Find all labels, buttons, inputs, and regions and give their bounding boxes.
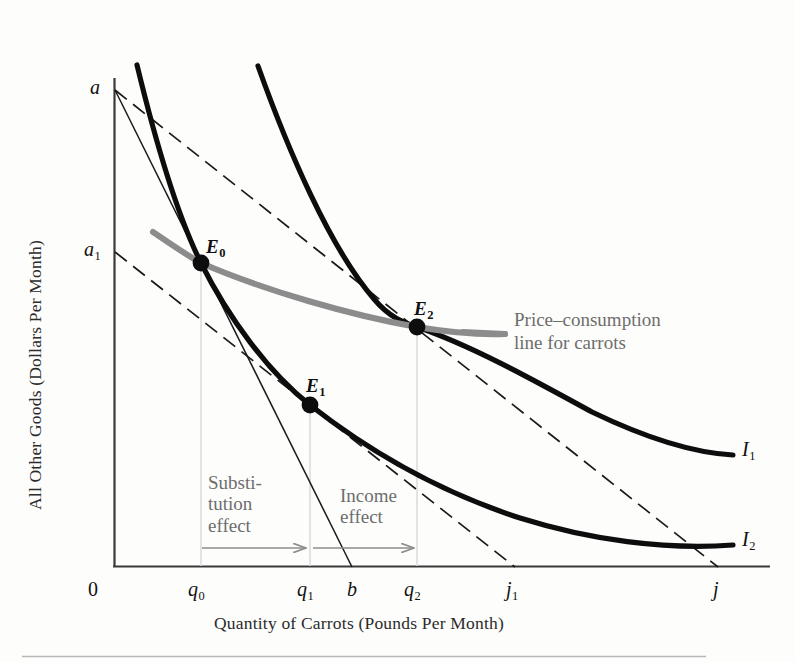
x-mark-j1-text: j bbox=[506, 578, 512, 600]
curve-label-I1-sub: 1 bbox=[749, 449, 756, 463]
equilibrium-label-E2-text: E bbox=[414, 298, 427, 319]
equilibrium-label-E1-sub: 1 bbox=[319, 385, 326, 399]
substitution-effect-line-2: tution bbox=[208, 493, 262, 514]
pcl-label-leader bbox=[463, 332, 505, 334]
x-mark-q2-sub: 2 bbox=[414, 589, 421, 603]
equilibrium-label-E0-text: E bbox=[206, 236, 219, 257]
indifference-curve-figure: All Other Goods (Dollars Per Month) Quan… bbox=[0, 0, 795, 662]
plot-canvas bbox=[0, 0, 795, 662]
equilibrium-label-E0-sub: 0 bbox=[219, 246, 226, 260]
equilibrium-label-E1-text: E bbox=[306, 375, 319, 396]
income-effect-line-1: Income bbox=[340, 485, 397, 506]
equilibrium-dot-E1 bbox=[302, 397, 319, 414]
income-effect-label: Income effect bbox=[340, 485, 397, 528]
x-mark-q0: q0 bbox=[188, 578, 205, 604]
x-mark-b: b bbox=[347, 578, 357, 600]
y-axis-title: All Other Goods (Dollars Per Month) bbox=[26, 240, 46, 510]
x-mark-j-text: j bbox=[713, 578, 719, 600]
indifference-curve-I1 bbox=[258, 66, 733, 455]
x-mark-q0-text: q bbox=[188, 578, 198, 600]
x-mark-q2-text: q bbox=[404, 578, 414, 600]
y-mark-a: a bbox=[90, 76, 100, 98]
x-mark-q0-sub: 0 bbox=[198, 589, 205, 603]
equilibrium-label-E0: E0 bbox=[206, 236, 225, 260]
x-mark-j1-sub: 1 bbox=[512, 589, 519, 603]
y-mark-a1-sub: 1 bbox=[94, 249, 101, 263]
substitution-effect-line-1: Substi- bbox=[208, 472, 262, 493]
equilibrium-label-E2-sub: 2 bbox=[427, 308, 434, 322]
price-consumption-line-label-2: line for carrots bbox=[514, 331, 661, 354]
income-effect-line-2: effect bbox=[340, 506, 397, 527]
price-consumption-line-label: Price–consumption line for carrots bbox=[514, 308, 661, 354]
curve-label-I2-sub: 2 bbox=[749, 539, 756, 553]
x-mark-q1-text: q bbox=[297, 578, 307, 600]
y-mark-a1-text: a bbox=[84, 238, 94, 260]
equilibrium-label-E2: E2 bbox=[414, 298, 433, 322]
x-mark-q2: q2 bbox=[404, 578, 421, 604]
y-mark-a1: a1 bbox=[84, 238, 101, 264]
curve-label-I2: I2 bbox=[742, 528, 755, 554]
equilibrium-label-E1: E1 bbox=[306, 375, 325, 399]
price-consumption-line-label-1: Price–consumption bbox=[514, 308, 661, 331]
x-axis-title: Quantity of Carrots (Pounds Per Month) bbox=[214, 614, 504, 634]
curve-label-I2-text: I bbox=[742, 528, 749, 550]
y-mark-a-text: a bbox=[90, 76, 100, 98]
curve-label-I1: I1 bbox=[742, 438, 755, 464]
x-mark-j: j bbox=[713, 578, 719, 600]
x-mark-q1: q1 bbox=[297, 578, 314, 604]
x-mark-q1-sub: 1 bbox=[307, 589, 314, 603]
x-mark-b-text: b bbox=[347, 578, 357, 600]
x-mark-j1: j1 bbox=[506, 578, 518, 604]
substitution-effect-line-3: effect bbox=[208, 515, 262, 536]
origin-label: 0 bbox=[88, 578, 98, 600]
curve-label-I1-text: I bbox=[742, 438, 749, 460]
substitution-effect-label: Substi- tution effect bbox=[208, 472, 262, 536]
